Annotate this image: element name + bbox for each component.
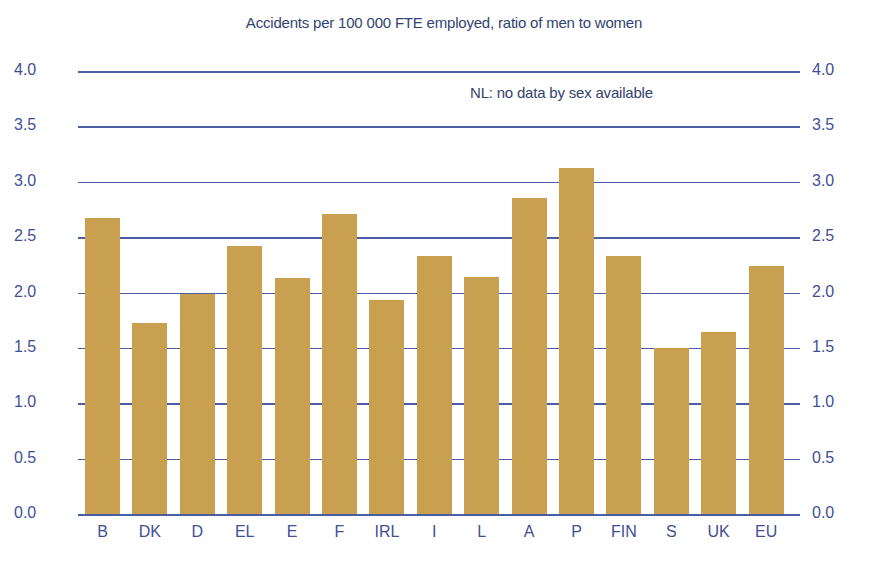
- gridline: [78, 182, 800, 184]
- gridline: [78, 71, 800, 73]
- bar-e: [275, 278, 310, 515]
- y-tick-left: 3.5: [14, 116, 64, 134]
- x-label: DK: [126, 523, 173, 541]
- y-tick-left: 0.0: [14, 504, 64, 522]
- x-label: F: [316, 523, 363, 541]
- x-axis-baseline: [78, 514, 800, 516]
- y-tick-right: 3.5: [812, 116, 862, 134]
- x-label: FIN: [600, 523, 647, 541]
- y-tick-left: 2.5: [14, 227, 64, 245]
- x-label: UK: [695, 523, 742, 541]
- bar-i: [417, 256, 452, 515]
- gridline: [78, 126, 800, 128]
- bar-b: [85, 218, 120, 515]
- bar-uk: [701, 332, 736, 515]
- y-tick-right: 1.0: [812, 393, 862, 411]
- bar-s: [654, 348, 689, 515]
- bar-eu: [749, 266, 784, 515]
- y-tick-left: 0.5: [14, 449, 64, 467]
- x-label: IRL: [363, 523, 410, 541]
- y-tick-left: 1.5: [14, 338, 64, 356]
- y-tick-left: 4.0: [14, 61, 64, 79]
- bar-l: [464, 277, 499, 515]
- gridline: [78, 237, 800, 239]
- x-label: S: [648, 523, 695, 541]
- x-label: I: [411, 523, 458, 541]
- bar-p: [559, 168, 594, 515]
- x-label: B: [79, 523, 126, 541]
- bar-irl: [369, 300, 404, 515]
- y-tick-left: 1.0: [14, 393, 64, 411]
- y-tick-left: 3.0: [14, 172, 64, 190]
- y-tick-right: 4.0: [812, 61, 862, 79]
- x-label: D: [174, 523, 221, 541]
- y-tick-right: 0.0: [812, 504, 862, 522]
- x-label: A: [506, 523, 553, 541]
- x-label: L: [458, 523, 505, 541]
- y-tick-right: 0.5: [812, 449, 862, 467]
- y-tick-right: 2.5: [812, 227, 862, 245]
- y-tick-right: 3.0: [812, 172, 862, 190]
- bar-fin: [606, 256, 641, 515]
- bar-a: [512, 198, 547, 515]
- bar-dk: [132, 323, 167, 515]
- x-label: P: [553, 523, 600, 541]
- x-label: E: [269, 523, 316, 541]
- y-tick-right: 2.0: [812, 283, 862, 301]
- bar-el: [227, 246, 262, 515]
- bar-f: [322, 214, 357, 515]
- x-label: EU: [743, 523, 790, 541]
- x-label: EL: [221, 523, 268, 541]
- y-tick-right: 1.5: [812, 338, 862, 356]
- chart-title: Accidents per 100 000 FTE employed, rati…: [0, 14, 888, 31]
- y-tick-left: 2.0: [14, 283, 64, 301]
- chart-annotation: NL: no data by sex available: [470, 84, 653, 101]
- bar-d: [180, 294, 215, 516]
